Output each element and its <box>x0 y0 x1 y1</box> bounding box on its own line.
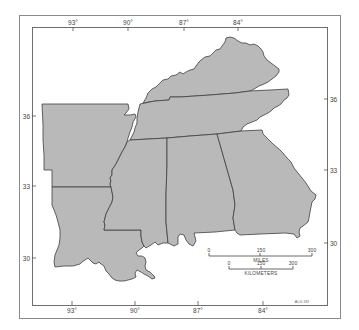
km-tick-label: 0 <box>228 260 231 266</box>
miles-tick-label: 150 <box>257 247 266 253</box>
miles-tick-label: 300 <box>308 247 317 253</box>
bottom-longitude-ticks: 93° 90° 87° 84° <box>67 301 268 314</box>
top-lon-label: 87° <box>179 19 189 26</box>
figure-id: ALG-182 <box>295 300 309 304</box>
top-lon-label: 84° <box>233 19 243 26</box>
miles-tick-label: 0 <box>208 247 211 253</box>
top-lon-label: 93° <box>68 19 78 26</box>
left-latitude-ticks: 36 33 30 <box>23 113 36 262</box>
top-lon-label: 90° <box>123 19 133 26</box>
km-tick-label: 300 <box>289 260 298 266</box>
left-lat-label: 36 <box>23 113 31 120</box>
left-lat-label: 30 <box>23 255 31 262</box>
kilometers-title: KILOMETERS <box>245 271 278 276</box>
bottom-lon-label: 90° <box>130 307 140 314</box>
right-lat-label: 33 <box>330 167 338 174</box>
bottom-lon-label: 84° <box>258 307 268 314</box>
right-lat-label: 36 <box>330 96 338 103</box>
states-layer <box>42 37 316 281</box>
left-lat-label: 33 <box>23 183 31 190</box>
bottom-lon-label: 87° <box>193 307 203 314</box>
right-latitude-ticks: 36 33 30 <box>324 96 338 247</box>
km-tick-label: 150 <box>257 260 266 266</box>
top-longitude-ticks: 93° 90° 87° 84° <box>68 19 243 32</box>
scale-bar: 0 150 300 MILES 0 150 300 KILOMETERS <box>208 247 317 276</box>
right-lat-label: 30 <box>330 240 338 247</box>
bottom-lon-label: 93° <box>67 307 77 314</box>
map: 93° 90° 87° 84° 93° 90° 87° 84° 36 33 30… <box>0 0 359 330</box>
